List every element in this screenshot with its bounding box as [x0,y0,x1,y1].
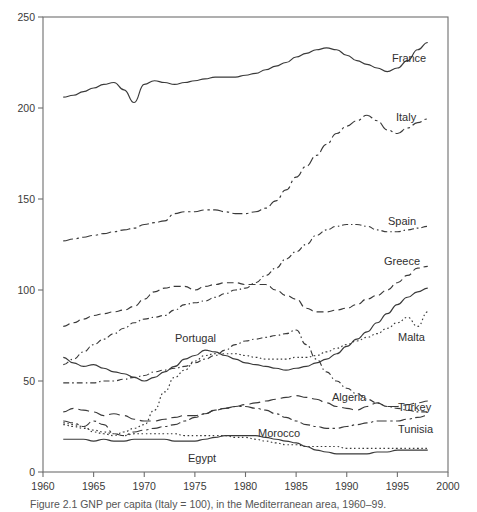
series-line-tunisia [63,406,428,435]
y-tick-label: 150 [17,193,35,205]
y-tick-label: 250 [17,11,35,23]
series-label-egypt: Egypt [188,452,216,464]
x-tick-label: 2000 [436,480,460,492]
series-label-greece: Greece [384,255,420,267]
series-label-morocco: Morocco [258,427,300,439]
series-line-turkey [63,396,428,421]
series-label-tunisia: Tunisia [398,423,434,435]
x-tick-label: 1985 [284,480,308,492]
series-line-greece [63,266,428,326]
series-label-france: France [392,52,426,64]
series-line-italy [63,115,428,241]
series-label-italy: Italy [396,111,417,123]
figure-container: 0501001502002501960196519701975198019851… [0,0,477,512]
series-line-algeria [63,330,428,412]
y-tick-label: 0 [29,466,35,478]
x-tick-label: 1970 [133,480,157,492]
figure-caption: Figure 2.1 GNP per capita (Italy = 100),… [30,498,470,511]
series-line-malta [63,312,428,436]
series-label-spain: Spain [388,215,416,227]
series-label-turkey: Turkey [398,401,432,413]
line-chart: 0501001502002501960196519701975198019851… [0,0,477,512]
x-tick-label: 1990 [335,480,359,492]
x-tick-label: 1995 [386,480,410,492]
plot-frame [43,17,448,472]
series-line-morocco [63,425,428,449]
x-tick-label: 1960 [31,480,55,492]
y-tick-label: 200 [17,102,35,114]
x-tick-label: 1975 [183,480,207,492]
series-line-spain [63,224,428,364]
series-line-france [63,42,428,102]
series-label-malta: Malta [398,331,426,343]
x-tick-label: 1965 [82,480,106,492]
series-label-algeria: Algeria [332,391,367,403]
x-tick-label: 1980 [234,480,258,492]
y-tick-label: 50 [23,375,35,387]
series-line-egypt [63,436,428,454]
series-label-portugal: Portugal [175,332,216,344]
y-tick-label: 100 [17,284,35,296]
